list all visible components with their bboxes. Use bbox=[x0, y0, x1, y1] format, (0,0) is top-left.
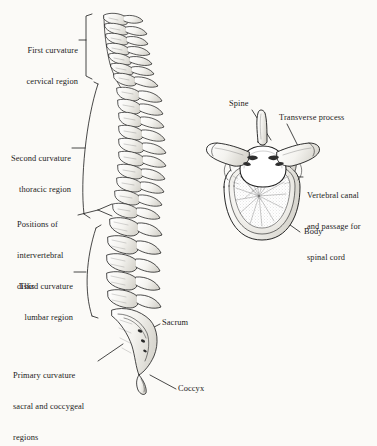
label-coccyx: Coccyx bbox=[178, 384, 204, 394]
label-thoracic-line2: thoracic region bbox=[0, 185, 71, 195]
label-disks-line1: Positions of bbox=[17, 220, 79, 230]
label-lumbar-line1: Third curvature bbox=[1, 282, 73, 292]
label-cervical-line1: First curvature bbox=[6, 46, 78, 56]
label-primary-line3: regions bbox=[13, 433, 105, 443]
transverse-process-left bbox=[206, 143, 249, 166]
label-canal-line1: Vertebral canal bbox=[307, 191, 377, 201]
thoracic-vertebrae bbox=[113, 87, 166, 219]
label-transverse-process: Transverse process bbox=[279, 113, 344, 123]
label-primary-line1: Primary curvature bbox=[13, 371, 105, 381]
vertebra-illustration bbox=[206, 110, 319, 240]
label-lumbar-region: Third curvature lumbar region bbox=[1, 262, 73, 344]
label-body: Body bbox=[304, 227, 323, 237]
label-spine: Spine bbox=[229, 99, 249, 109]
cervical-vertebrae bbox=[104, 13, 158, 88]
label-sacrum: Sacrum bbox=[162, 318, 188, 328]
label-thoracic-line1: Second curvature bbox=[0, 154, 71, 164]
label-cervical-region: First curvature cervical region bbox=[6, 26, 78, 108]
label-canal-line3: spinal cord bbox=[307, 253, 377, 263]
label-cervical-line2: cervical region bbox=[6, 77, 78, 87]
label-disks-line2: intervertebral bbox=[17, 251, 79, 261]
spinous-process bbox=[257, 110, 267, 145]
lumbar-vertebrae bbox=[107, 218, 162, 309]
label-lumbar-line2: lumbar region bbox=[1, 313, 73, 323]
label-primary-curvature: Primary curvature sacral and coccygeal r… bbox=[13, 351, 105, 446]
sacrum bbox=[112, 308, 157, 375]
spine-illustration bbox=[72, 13, 176, 394]
label-primary-line2: sacral and coccygeal bbox=[13, 402, 105, 412]
